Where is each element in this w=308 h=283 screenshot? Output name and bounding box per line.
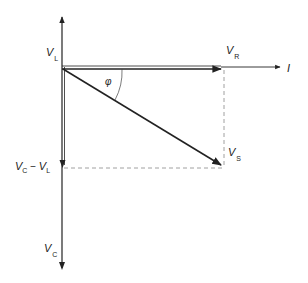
vs-phasor [63,69,221,165]
current-label: I [287,62,290,74]
vc-label: VC [44,242,57,258]
phasor-diagram: VL VR I φ VS VC − VL VC [0,0,308,283]
vc-minus-vl-label: VC − VL [15,160,50,174]
vs-label: VS [228,146,241,162]
phi-arc [115,69,122,100]
vr-phasor [62,66,221,69]
vr-label: VR [226,44,239,60]
phi-label: φ [105,76,112,87]
vc-arrowhead [59,262,65,270]
vl-label: VL [46,46,58,62]
vl-phasor [62,17,65,268]
